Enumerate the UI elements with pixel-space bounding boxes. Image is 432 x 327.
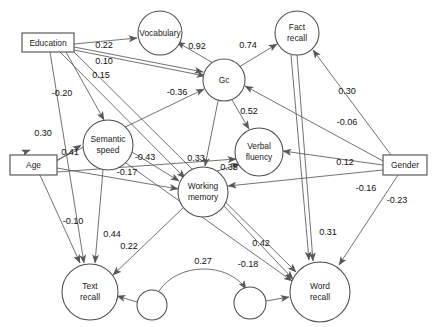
edge-semanticspeed-textrecall bbox=[95, 170, 103, 263]
edge-factrecall-wordrecall bbox=[291, 55, 309, 260]
edge-label-res-corr: 0.27 bbox=[194, 256, 212, 266]
node-word-recall-label-1: Word bbox=[310, 281, 330, 291]
edge-label-age-txt: -0.10 bbox=[63, 216, 84, 226]
node-residual-word[interactable] bbox=[234, 287, 266, 319]
edge-education-semanticspeed-alt bbox=[25, 150, 30, 152]
edge-label-edu-gc: 0.10 bbox=[95, 56, 113, 66]
node-text-recall-label-1: Text bbox=[82, 281, 98, 291]
edge-label-age-sem: 0.41 bbox=[61, 147, 79, 157]
node-word-recall-label-2: recall bbox=[310, 292, 330, 302]
edge-label-gend-gc: -0.06 bbox=[337, 117, 358, 127]
edge-label-age-gc: -0.36 bbox=[167, 87, 188, 97]
edge-label-gc-fact: 0.74 bbox=[239, 40, 257, 50]
edge-education-gc bbox=[74, 47, 203, 72]
node-education-label: Education bbox=[29, 38, 67, 48]
path-diagram-canvas: Education Age Gender Vocabulary Fact rec… bbox=[0, 0, 432, 327]
edge-label-voc-gc: 0.92 bbox=[188, 41, 206, 51]
node-verbal-fluency-label-1: Verbal bbox=[247, 141, 271, 151]
edge-gender-factrecall bbox=[313, 50, 391, 155]
edge-label-sem-word: -0.18 bbox=[238, 259, 259, 269]
node-verbal-fluency-label-2: fluency bbox=[246, 152, 273, 162]
edge-label-gc-word: 0.31 bbox=[319, 227, 337, 237]
node-semantic-speed-label-2: speed bbox=[97, 145, 120, 155]
node-gc-label: Gc bbox=[219, 75, 230, 85]
node-fact-recall-label-1: Fact bbox=[289, 22, 306, 32]
edge-label-gend-word: -0.23 bbox=[387, 195, 408, 205]
edge-label-sem-txt: 0.44 bbox=[103, 229, 121, 239]
edge-label-edu-voc: 0.22 bbox=[95, 40, 113, 50]
edge-label-gc-wm: 0.33 bbox=[187, 153, 205, 163]
edge-label-gend-wm: -0.16 bbox=[356, 183, 377, 193]
node-gender-label: Gender bbox=[391, 160, 419, 170]
edge-gc-wordrecall bbox=[297, 55, 313, 261]
edge-label-wm-word: 0.42 bbox=[252, 238, 270, 248]
edge-label-fact-gend: 0.30 bbox=[338, 86, 356, 96]
edge-label-gend-verb: 0.12 bbox=[336, 157, 354, 167]
edge-residual-correlation bbox=[159, 269, 246, 291]
edge-gc-workingmemory bbox=[205, 101, 218, 166]
edge-label-edu-sem: 0.15 bbox=[92, 70, 110, 80]
edge-resid1-textrecall bbox=[117, 296, 137, 302]
node-semantic-speed-label-1: Semantic bbox=[91, 134, 126, 144]
nodes-layer: Education Age Gender Vocabulary Fact rec… bbox=[10, 11, 427, 322]
edge-label-wm-txt: 0.22 bbox=[120, 241, 138, 251]
node-residual-text[interactable] bbox=[137, 290, 167, 320]
edge-label-gc-verb: 0.52 bbox=[240, 106, 258, 116]
edge-label-wm-verb: 0.35 bbox=[220, 162, 238, 172]
node-text-recall-label-2: recall bbox=[80, 292, 100, 302]
edge-label-edu2-sem: 0.30 bbox=[34, 128, 52, 138]
node-working-memory-label-2: memory bbox=[188, 192, 219, 202]
path-diagram-svg: Education Age Gender Vocabulary Fact rec… bbox=[0, 0, 432, 327]
node-fact-recall-label-2: recall bbox=[287, 33, 307, 43]
edge-label-edu-wm: -0.20 bbox=[52, 88, 73, 98]
edge-label-sem-wm: -0.43 bbox=[135, 152, 156, 162]
edge-resid2-wordrecall bbox=[266, 297, 289, 301]
node-age-label: Age bbox=[26, 160, 41, 170]
edge-label-age-wm: -0.17 bbox=[117, 167, 138, 177]
node-working-memory-label-1: Working bbox=[188, 181, 219, 191]
node-vocabulary-label: Vocabulary bbox=[139, 28, 181, 38]
